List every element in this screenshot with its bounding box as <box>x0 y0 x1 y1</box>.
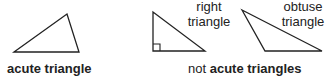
acute-triangle-shape <box>14 14 79 52</box>
acute-triangle-label: acute triangle <box>7 62 92 75</box>
right-label-line1: right <box>179 0 239 13</box>
not-acute-caption: not acute triangles <box>188 62 301 75</box>
right-angle-marker <box>153 44 160 51</box>
right-label-line2: triangle <box>179 15 239 28</box>
caption-prefix: not <box>188 61 206 76</box>
obtuse-triangle-label: obtuse triangle <box>275 0 329 28</box>
caption-bold: acute triangles <box>210 61 302 76</box>
obtuse-label-line1: obtuse <box>275 0 329 13</box>
obtuse-label-line2: triangle <box>275 15 329 28</box>
right-triangle-label: right triangle <box>179 0 239 28</box>
